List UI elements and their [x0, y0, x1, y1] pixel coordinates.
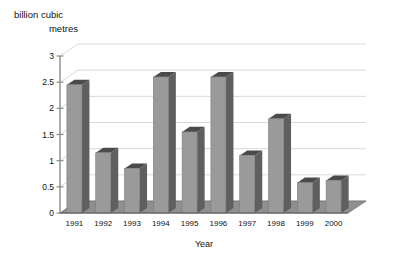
bar-1998	[269, 114, 292, 213]
bar-front-face	[326, 181, 341, 213]
bar-1999	[297, 178, 320, 213]
y-tick-label: 1.5	[42, 130, 54, 140]
x-tick-label: 2000	[325, 219, 343, 228]
bar-1993	[125, 163, 148, 213]
x-tick-label: 1995	[181, 219, 199, 228]
bar-2000	[326, 176, 349, 213]
y-axis-title-line2: metres	[49, 23, 78, 34]
bar-front-face	[125, 169, 140, 213]
bar-front-face	[96, 153, 111, 213]
bar-1992	[96, 148, 119, 213]
x-axis: 1991199219931994199519961997199819992000	[60, 213, 348, 228]
y-tick-label: 3	[49, 51, 54, 61]
y-axis-title-line1: billion cubic	[14, 9, 63, 20]
bar-front-face	[269, 119, 284, 213]
x-tick-label: 1991	[66, 219, 84, 228]
bar-1994	[153, 72, 176, 213]
bar-side-face	[341, 176, 349, 213]
bar-side-face	[255, 150, 263, 213]
y-tick-label: 2	[49, 103, 54, 113]
gridline-depth-connector	[60, 44, 78, 56]
bar-front-face	[182, 132, 197, 213]
bar-side-face	[139, 163, 147, 213]
bar-1997	[240, 150, 263, 213]
y-tick-label: 0	[49, 208, 54, 218]
bar-side-face	[82, 80, 90, 213]
bar-side-face	[283, 114, 291, 213]
y-tick-label: 2.5	[42, 77, 54, 87]
x-tick-label: 1997	[238, 219, 256, 228]
y-axis: 00.511.522.53	[42, 51, 63, 218]
bar-chart: 00.511.522.53199119921993199419951996199…	[0, 0, 396, 263]
x-tick-label: 1999	[296, 219, 314, 228]
bar-side-face	[197, 127, 205, 213]
x-tick-label: 1998	[267, 219, 285, 228]
bar-side-face	[226, 72, 234, 213]
bar-1995	[182, 127, 205, 213]
x-tick-label: 1994	[152, 219, 170, 228]
bar-front-face	[297, 183, 312, 213]
x-tick-label: 1993	[123, 219, 141, 228]
y-tick-label: 0.5	[42, 182, 54, 192]
y-tick-label: 1	[49, 156, 54, 166]
bar-side-face	[312, 178, 320, 213]
chart-canvas: 00.511.522.53199119921993199419951996199…	[0, 0, 396, 263]
bar-1991	[67, 80, 90, 213]
bar-front-face	[67, 85, 82, 213]
bar-1996	[211, 72, 234, 213]
x-tick-label: 1992	[94, 219, 112, 228]
x-axis-title: Year	[195, 239, 213, 249]
bars-group	[67, 72, 349, 213]
bar-side-face	[111, 148, 119, 213]
bar-side-face	[168, 72, 176, 213]
x-tick-label: 1996	[210, 219, 228, 228]
bar-front-face	[240, 155, 255, 213]
bar-front-face	[211, 77, 226, 213]
bar-front-face	[153, 77, 168, 213]
